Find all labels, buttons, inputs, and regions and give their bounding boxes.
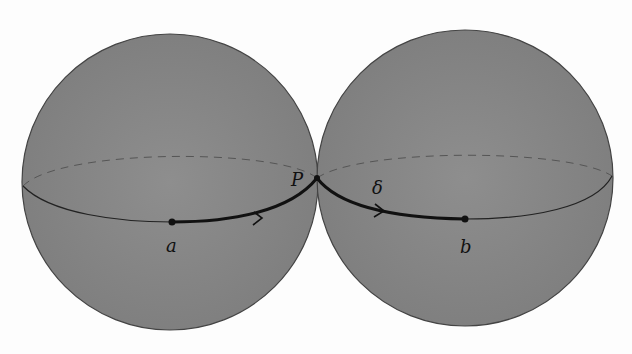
right-sphere: [317, 30, 613, 326]
label-P: P: [290, 169, 304, 190]
label-b: b: [460, 236, 472, 257]
point-a: [169, 219, 176, 226]
point-b: [462, 216, 469, 223]
diagram-canvas: a P δ b: [0, 0, 632, 354]
two-spheres-diagram: a P δ b: [0, 0, 632, 354]
label-delta: δ: [372, 177, 383, 198]
left-sphere: [22, 34, 318, 330]
label-a: a: [166, 235, 177, 256]
point-P: [314, 175, 320, 181]
